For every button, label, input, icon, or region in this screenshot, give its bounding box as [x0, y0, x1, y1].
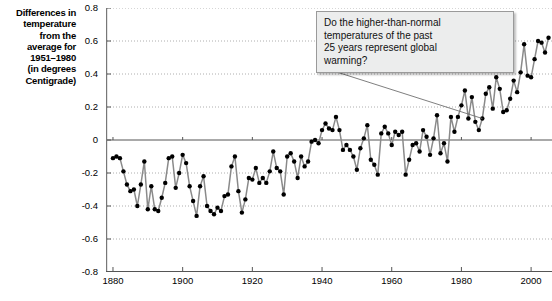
temperature-anomaly-chart: Differences in temperature from the aver… [0, 0, 552, 301]
data-point [365, 123, 369, 127]
data-point [240, 210, 244, 214]
y-axis-label: Differences in temperature from the aver… [2, 7, 76, 86]
y-tick-label: 0.8 [68, 3, 98, 13]
data-point [285, 154, 289, 158]
data-point [383, 125, 387, 129]
data-point [372, 163, 376, 167]
data-point [330, 128, 334, 132]
data-point [428, 153, 432, 157]
data-point [498, 87, 502, 91]
data-point [421, 128, 425, 132]
data-point [160, 196, 164, 200]
data-point [487, 85, 491, 89]
data-point [505, 108, 509, 112]
data-point [511, 78, 515, 82]
data-point [351, 154, 355, 158]
x-tick-label: 1880 [102, 276, 123, 286]
data-point [156, 209, 160, 213]
data-point [438, 151, 442, 155]
data-point [302, 164, 306, 168]
data-point [449, 115, 453, 119]
data-point [146, 207, 150, 211]
data-point [139, 182, 143, 186]
data-point [236, 189, 240, 193]
x-tick-marks [113, 137, 531, 272]
data-point [358, 146, 362, 150]
data-point [522, 42, 526, 46]
y-axis-ticks: 0.80.60.40.20-0.2-0.4-0.6-0.8 [70, 8, 102, 272]
data-point [456, 115, 460, 119]
data-point [355, 168, 359, 172]
data-point [320, 128, 324, 132]
data-point [184, 161, 188, 165]
y-axis-label-line: 1951–1980 [2, 52, 76, 63]
data-point [480, 116, 484, 120]
data-point [323, 121, 327, 125]
data-point [205, 204, 209, 208]
data-point [376, 172, 380, 176]
data-point [257, 181, 261, 185]
y-axis-label-line: Differences in [2, 7, 76, 18]
annotation-line: warming? [324, 55, 507, 68]
data-point [187, 184, 191, 188]
data-point [393, 130, 397, 134]
data-point [494, 75, 498, 79]
data-point [470, 95, 474, 99]
y-tick-label: -0.2 [68, 168, 98, 178]
data-point [177, 171, 181, 175]
y-axis-label-line: from the [2, 30, 76, 41]
data-point [288, 151, 292, 155]
y-tick-label: -0.4 [68, 201, 98, 211]
data-point [403, 172, 407, 176]
x-tick-label: 1980 [451, 276, 472, 286]
data-point [337, 128, 341, 132]
data-point [459, 103, 463, 107]
x-tick-label: 2000 [521, 276, 542, 286]
data-point [219, 209, 223, 213]
x-tick-label: 1940 [311, 276, 332, 286]
data-point [431, 136, 435, 140]
data-point [491, 106, 495, 110]
y-tick-label: 0 [68, 135, 98, 145]
y-tick-label: -0.8 [68, 267, 98, 277]
data-point [212, 212, 216, 216]
data-point [250, 177, 254, 181]
data-point [414, 141, 418, 145]
data-point [173, 186, 177, 190]
data-point [390, 143, 394, 147]
data-point [125, 182, 129, 186]
data-point [278, 169, 282, 173]
data-point [518, 70, 522, 74]
data-point [233, 154, 237, 158]
y-tick-label: 0.4 [68, 69, 98, 79]
data-point [529, 75, 533, 79]
y-tick-label: 0.6 [68, 36, 98, 46]
x-tick-label: 1960 [381, 276, 402, 286]
data-point [135, 204, 139, 208]
annotation-line: 25 years represent global [324, 42, 507, 55]
data-point [539, 40, 543, 44]
data-point [254, 166, 258, 170]
annotation-callout: Do the higher-than-normal temperatures o… [316, 11, 514, 73]
data-point [463, 88, 467, 92]
data-point [264, 181, 268, 185]
x-axis-ticks: 1880190019201940196019802000 [106, 276, 552, 290]
data-point [407, 158, 411, 162]
data-point [442, 141, 446, 145]
data-point [313, 138, 317, 142]
data-point [435, 113, 439, 117]
data-point [121, 169, 125, 173]
data-point [282, 192, 286, 196]
data-point [466, 116, 470, 120]
data-point [452, 130, 456, 134]
data-point [149, 184, 153, 188]
data-point [261, 176, 265, 180]
y-axis-label-line: (in degrees [2, 63, 76, 74]
data-point [275, 166, 279, 170]
data-point [226, 192, 230, 196]
data-point [484, 92, 488, 96]
data-point [118, 156, 122, 160]
data-point [163, 181, 167, 185]
data-point [543, 50, 547, 54]
data-point [424, 135, 428, 139]
